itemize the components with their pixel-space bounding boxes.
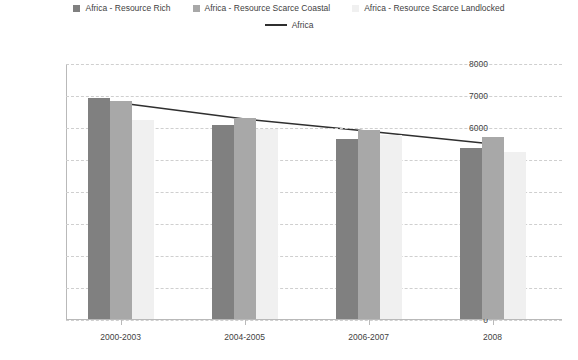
plot-area: 0100020003000400050006000700080002000-20… xyxy=(66,64,562,320)
bar[interactable] xyxy=(380,135,402,319)
legend-row-bars: Africa - Resource Rich Africa - Resource… xyxy=(0,0,578,16)
x-axis-tick-label: 2008 xyxy=(483,332,502,342)
legend-row-line: Africa xyxy=(0,17,578,33)
bar[interactable] xyxy=(212,125,234,319)
legend-item-resource-scarce-landlocked[interactable]: Africa - Resource Scarce Landlocked xyxy=(352,4,504,13)
legend-label-resource-rich: Africa - Resource Rich xyxy=(85,4,170,13)
x-axis-tick-label: 2000-2003 xyxy=(100,332,141,342)
legend-label-resource-scarce-coastal: Africa - Resource Scarce Coastal xyxy=(205,4,331,13)
bar[interactable] xyxy=(358,130,380,319)
legend-label-africa: Africa xyxy=(292,21,314,30)
legend-item-resource-rich[interactable]: Africa - Resource Rich xyxy=(73,4,170,13)
bar[interactable] xyxy=(460,148,482,319)
legend-item-resource-scarce-coastal[interactable]: Africa - Resource Scarce Coastal xyxy=(193,4,331,13)
x-axis-tick xyxy=(369,320,370,325)
legend-swatch-icon-resource-scarce-landlocked xyxy=(352,5,359,12)
chart-container: Africa - Resource Rich Africa - Resource… xyxy=(0,0,578,360)
bar[interactable] xyxy=(256,129,278,319)
bar[interactable] xyxy=(336,139,358,319)
bar[interactable] xyxy=(110,101,132,319)
x-axis-tick xyxy=(121,320,122,325)
chart-legend: Africa - Resource Rich Africa - Resource… xyxy=(0,0,578,33)
x-axis-tick xyxy=(245,320,246,325)
legend-swatch-icon-resource-scarce-coastal xyxy=(193,5,200,12)
y-axis-tick-label: 7000 xyxy=(469,91,488,101)
legend-label-resource-scarce-landlocked: Africa - Resource Scarce Landlocked xyxy=(364,4,504,13)
bar[interactable] xyxy=(482,137,504,319)
legend-swatch-icon-resource-rich xyxy=(73,5,80,12)
line-path-africa xyxy=(121,103,493,144)
bar[interactable] xyxy=(132,120,154,319)
legend-line-icon-africa xyxy=(265,24,287,26)
bar[interactable] xyxy=(504,152,526,319)
bar[interactable] xyxy=(88,98,110,319)
x-axis-tick-label: 2004-2005 xyxy=(224,332,265,342)
x-axis-tick xyxy=(493,320,494,325)
y-axis-tick-label: 6000 xyxy=(469,123,488,133)
bar[interactable] xyxy=(234,118,256,319)
x-axis-tick-label: 2006-2007 xyxy=(348,332,389,342)
legend-item-africa[interactable]: Africa xyxy=(265,21,314,30)
y-axis-tick-label: 8000 xyxy=(469,59,488,69)
